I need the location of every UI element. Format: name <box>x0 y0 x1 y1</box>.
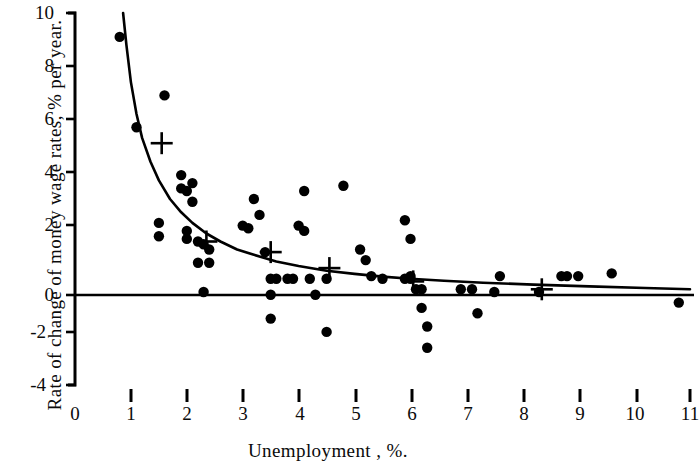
y-axis-spine <box>68 13 75 385</box>
data-point <box>416 303 426 313</box>
data-point <box>204 258 214 268</box>
x-tick-label-8: 8 <box>507 403 541 425</box>
data-point <box>674 297 684 307</box>
y-tick-label-minus2: -2 <box>6 321 46 343</box>
y-tick-label-minus4: -4 <box>6 374 46 396</box>
data-point <box>405 234 415 244</box>
data-point <box>187 178 197 188</box>
data-point <box>299 186 309 196</box>
x-tick-label-4: 4 <box>283 403 317 425</box>
data-point <box>266 290 276 300</box>
data-point <box>366 271 376 281</box>
data-point <box>355 244 365 254</box>
y-tick-label-6: 6 <box>14 108 54 130</box>
y-tick-label-8: 8 <box>14 55 54 77</box>
data-point <box>361 255 371 265</box>
data-point <box>495 271 505 281</box>
group-mean-marker <box>531 278 553 300</box>
data-point <box>198 287 208 297</box>
data-point <box>573 271 583 281</box>
y-tick-label-0: 0 <box>14 284 54 306</box>
data-points-layer <box>115 32 685 353</box>
data-point <box>131 122 141 132</box>
data-point <box>249 194 259 204</box>
data-point <box>400 215 410 225</box>
group-mean-marker <box>151 132 173 154</box>
x-tick-label-6: 6 <box>395 403 429 425</box>
x-tick-label-9: 9 <box>563 403 597 425</box>
data-point <box>115 32 125 42</box>
data-point <box>182 234 192 244</box>
data-point <box>456 284 466 294</box>
data-point <box>422 343 432 353</box>
data-point <box>607 268 617 278</box>
data-point <box>338 181 348 191</box>
y-tick-label-2: 2 <box>14 214 54 236</box>
x-axis-label: Unemployment , %. <box>248 440 408 462</box>
data-point <box>154 231 164 241</box>
data-point <box>310 290 320 300</box>
data-point <box>416 284 426 294</box>
data-point <box>254 210 264 220</box>
data-point <box>271 274 281 284</box>
data-point <box>467 284 477 294</box>
x-tick-label-11: 11 <box>673 403 699 425</box>
data-point <box>321 327 331 337</box>
data-point <box>187 197 197 207</box>
data-point <box>299 226 309 236</box>
data-point <box>154 218 164 228</box>
data-point <box>422 321 432 331</box>
x-tick-label-7: 7 <box>451 403 485 425</box>
data-point <box>562 271 572 281</box>
group-mean-marker <box>318 257 340 279</box>
phillips-curve-figure: Rate of change of money wage rates, % pe… <box>0 0 699 473</box>
data-point <box>176 170 186 180</box>
data-point <box>266 313 276 323</box>
data-point <box>472 308 482 318</box>
y-tick-label-10: 10 <box>14 2 54 24</box>
x-tick-label-0: 0 <box>58 403 92 425</box>
x-tick-label-10: 10 <box>618 403 652 425</box>
data-point <box>193 258 203 268</box>
data-point <box>288 274 298 284</box>
x-tick-label-1: 1 <box>114 403 148 425</box>
x-tick-label-5: 5 <box>339 403 373 425</box>
x-tick-label-2: 2 <box>170 403 204 425</box>
x-tick-label-3: 3 <box>226 403 260 425</box>
group-mean-markers-layer <box>151 132 553 300</box>
data-point <box>489 287 499 297</box>
data-point <box>377 274 387 284</box>
y-tick-label-4: 4 <box>14 161 54 183</box>
axis-lines <box>68 13 694 385</box>
data-point <box>159 90 169 100</box>
data-point <box>243 223 253 233</box>
data-point <box>305 274 315 284</box>
group-mean-marker <box>260 241 282 263</box>
x-axis-ticks <box>131 389 690 402</box>
